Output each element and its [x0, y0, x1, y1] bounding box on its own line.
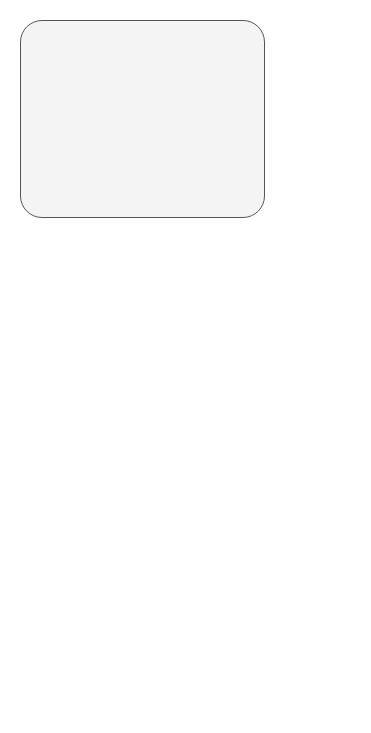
googlenet-diagram: [0, 0, 371, 733]
edges-layer: [0, 0, 371, 733]
